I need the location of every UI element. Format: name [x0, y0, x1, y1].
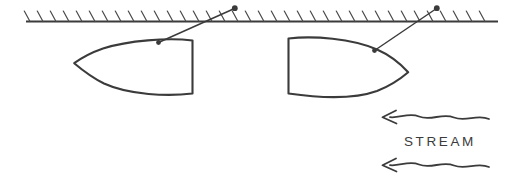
right-leader-dot-inner	[372, 48, 377, 53]
left-leader-dot-outer	[232, 5, 238, 11]
left-leader-dot-inner	[156, 40, 161, 45]
diagram-background	[0, 0, 515, 186]
right-leader-dot-outer	[434, 5, 440, 11]
stream-label: STREAM	[404, 134, 476, 149]
stream-diagram: STREAM	[0, 0, 515, 186]
